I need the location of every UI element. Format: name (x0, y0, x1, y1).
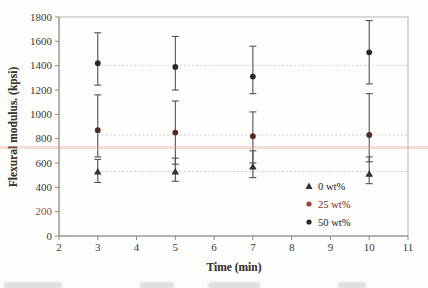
x-tick-label: 5 (173, 241, 179, 253)
x-axis-title: Time (min) (206, 261, 261, 273)
y-axis-title: Flexural modulus. (kpsi) (7, 67, 19, 187)
x-tick-label: 7 (250, 241, 256, 253)
y-tick-label: 0 (47, 230, 53, 242)
circle-marker-icon (303, 199, 315, 209)
data-point-marker (366, 49, 372, 55)
x-tick-label: 6 (211, 241, 217, 253)
x-tick-label: 8 (289, 241, 295, 253)
y-tick-label: 1800 (30, 11, 53, 23)
triangle-marker-icon (303, 181, 315, 191)
plot-frame (59, 17, 408, 236)
scanned-chart-page: 0200400600800100012001400160018002345678… (0, 0, 428, 288)
chart-plot-area: 0200400600800100012001400160018002345678… (0, 0, 428, 288)
data-point-marker (94, 168, 102, 175)
data-point-marker (250, 133, 256, 139)
y-tick-label: 1400 (30, 59, 53, 71)
legend-item-label: 0 wt% (318, 181, 345, 192)
y-axis: 020040060080010001200140016001800 (30, 11, 59, 242)
x-tick-label: 11 (403, 241, 414, 253)
y-tick-label: 600 (36, 157, 53, 169)
y-tick-label: 1000 (30, 108, 53, 120)
legend: 0 wt%25 wt%50 wt% (303, 179, 350, 229)
x-axis: 234567891011 (56, 236, 413, 253)
data-point-marker (172, 64, 178, 70)
legend-item-0wt: 0 wt% (303, 179, 350, 193)
data-point-marker (95, 60, 101, 66)
legend-item-25wt: 25 wt% (303, 197, 350, 211)
series-25wt (94, 94, 372, 165)
y-tick-label: 800 (36, 132, 53, 144)
data-point-marker (172, 130, 178, 136)
x-tick-label: 4 (134, 241, 140, 253)
circle-marker-icon (303, 217, 315, 227)
legend-item-50wt: 50 wt% (303, 215, 350, 229)
y-tick-label: 200 (36, 205, 53, 217)
data-point-marker (250, 74, 256, 80)
x-tick-label: 3 (95, 241, 101, 253)
data-point-marker (365, 170, 373, 177)
data-point-marker (366, 132, 372, 138)
legend-item-label: 25 wt% (318, 199, 350, 210)
data-point-marker (249, 163, 257, 170)
legend-item-label: 50 wt% (318, 217, 350, 228)
x-tick-label: 2 (56, 241, 62, 253)
y-tick-label: 1600 (30, 35, 53, 47)
y-tick-label: 400 (36, 181, 53, 193)
data-point-marker (95, 127, 101, 133)
series-50wt (94, 21, 372, 94)
y-tick-label: 1200 (30, 84, 53, 96)
x-tick-label: 9 (328, 241, 334, 253)
x-tick-label: 10 (364, 241, 376, 253)
